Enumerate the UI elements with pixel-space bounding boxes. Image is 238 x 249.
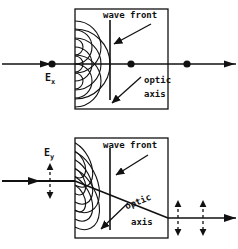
bottom-panel-graphics	[2, 135, 236, 238]
wave-front-label-top: wave front	[103, 11, 157, 20]
wave-front-label-bottom: wave front	[103, 141, 157, 150]
incident-polarization-label-top: Ex	[45, 73, 55, 86]
optic-axis-arrow-top	[112, 77, 141, 103]
polarization-dot-inside-top	[127, 60, 134, 67]
top-panel-graphics	[2, 9, 236, 109]
birefringence-figure: wave front Ex optic axis wave front Ey o…	[0, 0, 238, 249]
wave-front-leader-top	[114, 24, 151, 44]
polarization-dot-incident-top	[48, 60, 55, 67]
figure-graphics	[0, 0, 238, 249]
polarization-dot-exit-top	[183, 60, 190, 67]
optic-axis-label-bottom-line2: axis	[131, 218, 153, 227]
wave-front-leader-bottom	[116, 155, 148, 175]
exit-arrowhead-top	[224, 61, 235, 68]
optic-axis-arrow-bottom	[101, 203, 128, 229]
e-subscript-top: x	[51, 78, 55, 86]
optic-axis-label-top-line1: optic	[144, 76, 171, 85]
incident-arrowhead-bottom	[28, 177, 40, 185]
incident-polarization-label-bottom: Ey	[44, 148, 54, 161]
e-subscript-bottom: y	[50, 153, 54, 161]
optic-axis-label-top-line2: axis	[144, 90, 166, 99]
crystal-box-bottom	[75, 138, 168, 238]
exit-arrowhead-bottom	[224, 214, 236, 222]
